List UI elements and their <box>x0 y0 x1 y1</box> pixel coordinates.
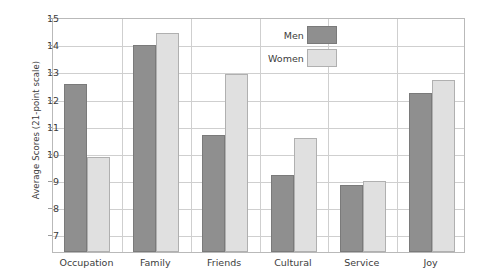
bar-service-women <box>363 181 386 252</box>
x-tick-label-occupation: Occupation <box>59 257 113 268</box>
bar-cultural-women <box>294 138 317 252</box>
y-tick-mark <box>48 100 52 101</box>
bar-group <box>340 19 386 252</box>
legend-label-women: Women <box>268 53 304 64</box>
legend: Men Women <box>268 26 337 72</box>
bar-joy-men <box>409 93 432 252</box>
y-tick-label: 13 <box>29 67 59 78</box>
bar-family-women <box>156 33 179 252</box>
y-tick-mark <box>48 235 52 236</box>
bar-friends-men <box>202 135 225 252</box>
bar-family-men <box>133 45 156 252</box>
y-tick-label: 12 <box>29 94 59 105</box>
y-tick-mark <box>48 72 52 73</box>
y-tick-label: 10 <box>29 148 59 159</box>
bar-service-men <box>340 185 363 252</box>
bar-group <box>409 19 455 252</box>
legend-item-men: Men <box>268 26 337 44</box>
y-tick-label: 15 <box>29 13 59 24</box>
bar-chart: Average Scores (21-point scale) 15141312… <box>0 0 480 278</box>
y-tick-mark <box>48 154 52 155</box>
y-tick-label: 14 <box>29 40 59 51</box>
bar-group <box>202 19 248 252</box>
bar-friends-women <box>225 74 248 252</box>
plot-area <box>52 18 465 253</box>
y-tick-label: 11 <box>29 121 59 132</box>
x-tick-label-friends: Friends <box>207 257 241 268</box>
bar-group <box>64 19 110 252</box>
bar-cultural-men <box>271 175 294 252</box>
y-tick-mark <box>48 18 52 19</box>
x-tick-label-cultural: Cultural <box>274 257 311 268</box>
y-tick-mark <box>48 45 52 46</box>
y-tick-mark <box>48 127 52 128</box>
bar-occupation-women <box>87 157 110 252</box>
bar-joy-women <box>432 80 455 253</box>
x-tick-label-family: Family <box>140 257 171 268</box>
legend-label-men: Men <box>284 30 304 41</box>
legend-swatch-men <box>307 26 337 44</box>
bar-group <box>133 19 179 252</box>
y-tick-mark <box>48 181 52 182</box>
legend-swatch-women <box>307 49 337 67</box>
y-tick-label: 8 <box>29 203 59 214</box>
bar-occupation-men <box>64 84 87 252</box>
x-tick-label-joy: Joy <box>423 257 437 268</box>
bars-layer <box>53 19 464 252</box>
y-tick-mark <box>48 208 52 209</box>
y-tick-label: 7 <box>29 230 59 241</box>
legend-item-women: Women <box>268 49 337 67</box>
y-tick-label: 9 <box>29 176 59 187</box>
x-tick-label-service: Service <box>344 257 379 268</box>
